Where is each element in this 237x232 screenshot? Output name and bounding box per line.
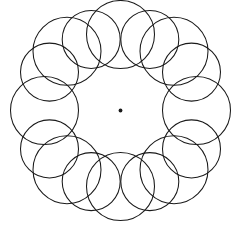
rosette-circle-4 [163,77,231,145]
rosette-circle-5 [163,120,221,178]
center-dot [119,109,123,113]
rosette-circle-12 [11,77,79,145]
rosette-circle-13 [21,43,79,101]
rosette-circle-15 [62,10,120,68]
circle-rosette-figure [0,0,237,232]
rosette-circle-3 [163,43,221,101]
rosette-circle-11 [21,120,79,178]
figure-canvas [0,0,237,232]
rosette-circle-9 [62,153,120,211]
rosette-circle-7 [121,153,179,211]
rosette-circle-1 [121,10,179,68]
